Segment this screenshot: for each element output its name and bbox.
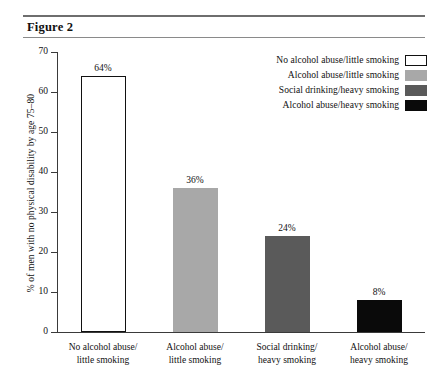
y-tick-label: 30: [39, 206, 49, 217]
bar: 36%: [173, 188, 218, 332]
x-tick-label: No alcohol abuse/little smoking: [57, 341, 149, 366]
x-tick-label-line: heavy smoking: [241, 354, 333, 367]
y-tick-label: 50: [39, 126, 49, 137]
legend-swatch: [405, 85, 427, 96]
y-tick-label: 20: [39, 246, 49, 257]
bar: 8%: [357, 300, 402, 332]
y-axis-line: [57, 52, 58, 333]
x-tick-label-line: Alcohol abuse/: [149, 341, 241, 354]
chart-legend: No alcohol abuse/little smokingAlcohol a…: [215, 53, 427, 113]
bar-chart: % of men with no physical disability by …: [0, 0, 443, 386]
legend-swatch: [405, 55, 427, 66]
y-tick: 50: [51, 132, 57, 133]
x-tick-label-line: heavy smoking: [333, 354, 425, 367]
legend-item: Alcohol abuse/little smoking: [215, 68, 427, 83]
bar-value-label: 64%: [94, 63, 111, 74]
y-tick-label: 60: [39, 86, 49, 97]
y-tick-label: 0: [43, 326, 48, 337]
legend-item: Alcohol abuse/heavy smoking: [215, 98, 427, 113]
bar-value-label: 24%: [278, 223, 295, 234]
y-tick-label: 70: [39, 46, 49, 57]
x-tick-label-line: little smoking: [57, 354, 149, 367]
legend-swatch: [405, 70, 427, 81]
y-tick: 0: [51, 332, 57, 333]
legend-item-label: Alcohol abuse/little smoking: [288, 70, 399, 81]
y-tick: 10: [51, 292, 57, 293]
bar: 64%: [81, 76, 126, 332]
x-tick-label-line: No alcohol abuse/: [57, 341, 149, 354]
x-axis-line: [57, 332, 425, 333]
legend-item-label: No alcohol abuse/little smoking: [276, 55, 399, 66]
x-tick-label: Alcohol abuse/little smoking: [149, 341, 241, 366]
y-tick: 40: [51, 172, 57, 173]
y-tick: 60: [51, 92, 57, 93]
legend-item-label: Alcohol abuse/heavy smoking: [283, 100, 399, 111]
x-tick-label: Alcohol abuse/heavy smoking: [333, 341, 425, 366]
y-axis-label: % of men with no physical disability by …: [26, 68, 36, 318]
legend-item-label: Social drinking/heavy smoking: [279, 85, 399, 96]
bar: 24%: [265, 236, 310, 332]
x-tick-label: Social drinking/heavy smoking: [241, 341, 333, 366]
y-tick: 30: [51, 212, 57, 213]
y-tick: 70: [51, 52, 57, 53]
x-tick-label-line: Alcohol abuse/: [333, 341, 425, 354]
legend-item: No alcohol abuse/little smoking: [215, 53, 427, 68]
x-tick-label-line: Social drinking/: [241, 341, 333, 354]
legend-swatch: [405, 100, 427, 111]
x-tick-label-line: little smoking: [149, 354, 241, 367]
y-tick-label: 10: [39, 286, 49, 297]
bar-value-label: 8%: [373, 287, 386, 298]
bar-value-label: 36%: [186, 175, 203, 186]
y-tick-label: 40: [39, 166, 49, 177]
legend-item: Social drinking/heavy smoking: [215, 83, 427, 98]
y-tick: 20: [51, 252, 57, 253]
